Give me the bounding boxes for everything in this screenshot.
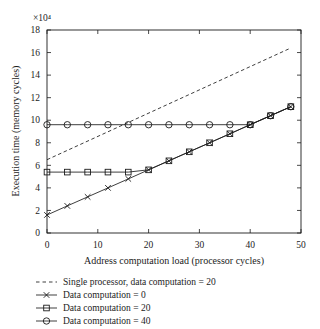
legend-label: Data computation = 20	[63, 303, 151, 313]
y-tick-label: 12	[31, 93, 41, 103]
data-computation-0-marker	[105, 185, 111, 191]
legend-label: Single processor, data computation = 20	[63, 277, 216, 287]
legend: Single processor, data computation = 20D…	[36, 277, 216, 326]
y-scale-label: ×10⁴	[33, 13, 52, 23]
single-processor-line	[47, 48, 291, 160]
series-layer	[44, 48, 294, 218]
y-tick-label: 10	[31, 115, 41, 125]
x-tick-label: 30	[195, 240, 205, 250]
data-computation-0-marker	[125, 176, 131, 182]
plot-box	[47, 30, 301, 233]
x-tick-label: 10	[93, 240, 103, 250]
y-axis-label: Execution time (memory cycles)	[10, 66, 22, 197]
x-tick-label: 20	[144, 240, 154, 250]
data-computation-0-marker	[85, 194, 91, 200]
plot-frame: 01020304050024681012141618	[31, 25, 307, 250]
y-tick-label: 2	[35, 206, 40, 216]
line-chart-figure: ×10⁴ 01020304050024681012141618 Address …	[0, 0, 320, 329]
y-tick-label: 16	[31, 48, 41, 58]
y-tick-label: 14	[31, 70, 41, 80]
data-computation-20-line	[47, 107, 291, 172]
y-tick-label: 4	[35, 183, 40, 193]
legend-item: Single processor, data computation = 20	[36, 277, 216, 287]
x-tick-label: 50	[296, 240, 306, 250]
data-computation-0-marker	[65, 203, 71, 209]
legend-label: Data computation = 0	[63, 290, 146, 300]
legend-label: Data computation = 40	[63, 316, 151, 326]
legend-item: Data computation = 40	[36, 316, 151, 326]
legend-item: Data computation = 0	[36, 290, 146, 300]
data-computation-40-line	[47, 107, 291, 125]
x-tick-label: 40	[245, 240, 255, 250]
x-tick-label: 0	[45, 240, 50, 250]
y-tick-label: 6	[35, 161, 40, 171]
x-axis-label: Address computation load (processor cycl…	[84, 255, 264, 267]
chart-canvas: ×10⁴ 01020304050024681012141618 Address …	[0, 0, 320, 329]
legend-item: Data computation = 20	[36, 303, 151, 313]
y-tick-label: 18	[31, 25, 41, 35]
y-tick-label: 8	[35, 138, 40, 148]
y-tick-label: 0	[35, 228, 40, 238]
